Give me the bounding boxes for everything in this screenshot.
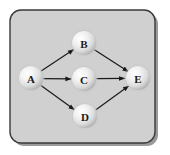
figure-canvas: A B C D E (0, 0, 170, 155)
node-a-sphere (19, 66, 43, 90)
node-b[interactable]: B (69, 28, 99, 58)
node-e[interactable]: E (123, 63, 153, 93)
node-d[interactable]: D (70, 101, 100, 131)
node-e-sphere (126, 66, 150, 90)
node-b-sphere (72, 31, 96, 55)
node-a[interactable]: A (16, 63, 46, 93)
node-d-sphere (73, 104, 97, 128)
graph-diagram: A B C D E (0, 0, 170, 155)
node-c[interactable]: C (69, 64, 99, 94)
node-c-sphere (72, 67, 96, 91)
